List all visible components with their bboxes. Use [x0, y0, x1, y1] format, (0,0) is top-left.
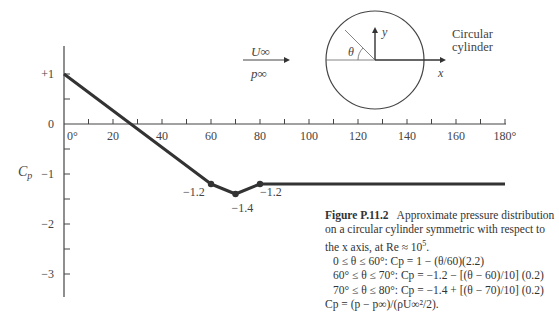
- y-tick-labels: +10−1−2−3: [41, 67, 54, 281]
- value-annotation: −1.2: [183, 185, 205, 199]
- caption-text: Figure P.11.2 Approximate pressure distr…: [325, 208, 557, 254]
- cylinder-diagram: θ y x Circular cylinder: [326, 11, 496, 109]
- y-tick-label: −2: [41, 217, 54, 231]
- x-tick-label: 40: [156, 129, 168, 143]
- x-tick-labels: 0°20406080100120140160180°: [67, 129, 517, 143]
- y-tick-label: 0: [48, 117, 54, 131]
- equation-line: 0 ≤ θ ≤ 60°: Cp = 1 − (θ/60)(2.2): [325, 254, 557, 268]
- y-axis-title: Cp: [18, 164, 32, 181]
- value-annotation: −1.4: [232, 201, 254, 215]
- value-annotations: −1.2−1.4−1.2: [183, 185, 282, 215]
- data-point-markers: [208, 181, 263, 197]
- y-tick-label: +1: [41, 67, 54, 81]
- x-tick-label: 180°: [494, 129, 517, 143]
- y-tick-label: −3: [41, 267, 54, 281]
- flow-arrow-head: [284, 57, 290, 63]
- value-annotation: −1.2: [260, 185, 282, 199]
- data-point: [232, 191, 238, 197]
- x-tick-label: 120: [349, 129, 367, 143]
- equation-line: 60° ≤ θ ≤ 70°: Cp = −1.2 − [(θ − 60)/10]…: [325, 268, 557, 282]
- equation-line: Cp = (p − p∞)/(ρU∞²/2).: [325, 297, 557, 311]
- x-tick-label: 160: [447, 129, 465, 143]
- x-tick-label: 80: [254, 129, 266, 143]
- freestream-indicator: U∞ p∞: [243, 44, 290, 81]
- angle-arc: [358, 48, 363, 60]
- freestream-pressure-label: p∞: [250, 66, 267, 81]
- data-point: [208, 181, 214, 187]
- cylinder-label: Circular cylinder: [452, 27, 496, 54]
- y-axis-label: y: [381, 25, 388, 39]
- x-tick-label: 20: [107, 129, 119, 143]
- x-axis-label: x: [437, 66, 444, 80]
- y-ticks: [64, 74, 70, 274]
- y-arrow-head: [372, 27, 378, 33]
- x-tick-label: 100: [300, 129, 318, 143]
- freestream-velocity-label: U∞: [251, 44, 270, 59]
- y-tick-label: −1: [41, 167, 54, 181]
- theta-label: θ: [348, 45, 354, 59]
- x-tick-label: 60: [205, 129, 217, 143]
- caption-period: .: [426, 241, 429, 253]
- figure-label: Figure P.11.2: [325, 209, 389, 221]
- x-tick-label: 0°: [67, 129, 78, 143]
- x-arrow-head: [440, 57, 446, 63]
- x-tick-label: 140: [398, 129, 416, 143]
- equation-line: 70° ≤ θ ≤ 80°: Cp = −1.4 + [(θ − 70)/10]…: [325, 283, 557, 297]
- figure-caption: Figure P.11.2 Approximate pressure distr…: [325, 208, 557, 312]
- cp-curve: [64, 74, 505, 194]
- x-ticks: [89, 119, 506, 124]
